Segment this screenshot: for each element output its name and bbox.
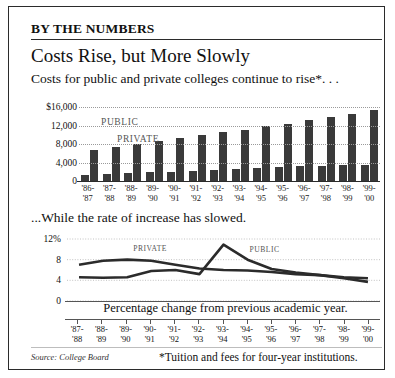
bar-y-tick-label: 4,000 <box>31 158 77 168</box>
deck-bottom: ...While the rate of increase has slowed… <box>31 210 246 226</box>
line-legend-private: PRIVATE <box>133 244 167 253</box>
bar-x-axis: '86-'87'87-'88'88-'89'89-'90'90-'91'91-'… <box>77 183 380 203</box>
bar-public <box>146 172 154 181</box>
line-y-tick-label: 8 <box>31 255 61 265</box>
bar-private <box>241 130 249 181</box>
bar-private <box>155 141 163 181</box>
line-x-tick-label: '92-'93 <box>186 324 210 344</box>
bar-gridline <box>79 163 380 164</box>
line-x-tick-label: '89-'90 <box>113 324 137 344</box>
line-y-tick-label: 4 <box>31 275 61 285</box>
line-y-tick-label: 12% <box>31 234 61 244</box>
bar-public <box>210 170 218 181</box>
bar-x-tick-label: '92-'93 <box>207 183 229 203</box>
bar-public <box>167 172 175 181</box>
line-series-public <box>79 245 368 282</box>
bar-private <box>90 150 98 181</box>
bar-private <box>112 147 120 181</box>
line-legend-public: PUBLIC <box>250 245 280 254</box>
line-x-tick-label: '87-'88 <box>65 324 89 344</box>
bar-x-tick-label: '95-'96 <box>272 183 294 203</box>
bar-x-tick-label: '97-'98 <box>315 183 337 203</box>
bar-x-tick-label: '88-'89 <box>120 183 142 203</box>
bar-private <box>284 124 292 181</box>
bar-private <box>262 126 270 181</box>
bar-private <box>327 117 335 181</box>
bar-public <box>253 168 261 181</box>
source-note: Source: College Board <box>31 352 109 362</box>
bar-x-tick-label: '94-'95 <box>250 183 272 203</box>
bar-gridline <box>79 144 380 145</box>
bar-x-tick-label: '86-'87 <box>77 183 99 203</box>
bar-private <box>348 114 356 181</box>
bar-private <box>305 120 313 181</box>
line-x-tick-label: '99-'00 <box>356 324 380 344</box>
bar-x-tick-label: '98-'99 <box>337 183 359 203</box>
bar-y-tick-label: 8,000 <box>31 139 77 149</box>
bar-x-tick-label: '91-'92 <box>185 183 207 203</box>
bar-private <box>370 110 378 181</box>
line-x-tick-label: '96-'97 <box>283 324 307 344</box>
line-caption: Percentage change from previous academic… <box>71 301 380 316</box>
bar-private <box>198 135 206 181</box>
line-plot-area: PRIVATEPUBLIC <box>67 239 380 301</box>
line-x-tick-label: '94-'95 <box>235 324 259 344</box>
deck-top: Costs for public and private colleges co… <box>31 71 339 87</box>
bar-y-tick-label: $16,000 <box>31 102 77 112</box>
line-x-tick-label: '98-'99 <box>332 324 356 344</box>
bar-public <box>124 173 132 181</box>
line-y-axis: 04812% <box>31 239 61 301</box>
bar-gridline <box>79 107 380 108</box>
bar-public <box>296 166 304 181</box>
bar-x-tick-label: '93-'94 <box>228 183 250 203</box>
line-chart: 04812% PRIVATEPUBLIC Percentage change f… <box>31 235 382 340</box>
bar-y-axis: 04,0008,00012,000$16,000 <box>31 107 77 181</box>
kicker-label: BY THE NUMBERS <box>31 21 155 37</box>
bar-public <box>232 169 240 181</box>
line-x-tick-label: '93-'94 <box>210 324 234 344</box>
footer-rule <box>31 347 382 348</box>
line-x-tick-label: '91-'92 <box>162 324 186 344</box>
bar-private <box>219 132 227 181</box>
bar-public <box>189 171 197 181</box>
bar-x-tick-label: '99-'00 <box>358 183 380 203</box>
bar-y-tick-label: 12,000 <box>31 121 77 131</box>
line-x-axis: '87-'88'88-'89'89-'90'90-'91'91-'92'92-'… <box>65 324 380 344</box>
line-x-tick-label: '97-'98 <box>307 324 331 344</box>
line-x-tick-label: '95-'96 <box>259 324 283 344</box>
line-x-tick-label: '90-'91 <box>138 324 162 344</box>
line-y-tick-label: 0 <box>31 296 61 306</box>
bar-public <box>318 166 326 181</box>
bar-x-tick-label: '90-'91 <box>164 183 186 203</box>
bar-public <box>103 174 111 181</box>
line-series-svg: PRIVATEPUBLIC <box>67 239 380 301</box>
bar-y-tick-label: 0 <box>31 176 77 186</box>
bar-axis-line <box>77 181 380 182</box>
bar-legend-public: PUBLIC <box>101 117 138 127</box>
bar-public <box>275 167 283 181</box>
line-x-tick-label: '88-'89 <box>89 324 113 344</box>
kicker-rule <box>31 39 382 40</box>
bar-x-tick-label: '96-'97 <box>293 183 315 203</box>
bar-public <box>361 165 369 181</box>
page-title: Costs Rise, but More Slowly <box>31 45 250 67</box>
bar-x-tick-label: '89-'90 <box>142 183 164 203</box>
bar-legend-private: PRIVATE <box>117 134 159 144</box>
bar-public <box>339 165 347 181</box>
bar-x-tick-label: '87-'88 <box>99 183 121 203</box>
bar-chart: 04,0008,00012,000$16,000 '86-'87'87-'88'… <box>31 103 382 203</box>
infographic-frame: BY THE NUMBERS Costs Rise, but More Slow… <box>8 6 385 370</box>
footnote: *Tuition and fees for four-year institut… <box>159 351 358 363</box>
